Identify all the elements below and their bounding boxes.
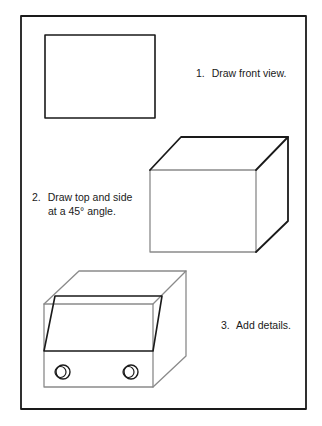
detailed-box-front-face — [44, 304, 153, 387]
step-2-number: 2. — [32, 191, 41, 203]
knob-right — [123, 365, 138, 379]
step-1-front-view — [45, 35, 155, 118]
step-3-number: 3. — [221, 319, 230, 331]
step-3-detailed-box — [44, 271, 186, 387]
step-2-label-line2: at a 45° angle. — [48, 205, 116, 217]
step-1-number: 1. — [196, 67, 205, 79]
detailed-box-top-face — [44, 271, 186, 304]
step-2-label-line1: 2. Draw top and side — [32, 191, 132, 203]
step-2-text-line1: Draw top and side — [48, 191, 133, 203]
step-3-text: Add details. — [236, 319, 291, 331]
box-front-face — [150, 170, 256, 252]
step-2-box — [150, 137, 288, 252]
knob-left — [55, 365, 70, 379]
step-1-text: Draw front view. — [212, 67, 287, 79]
box-top-face — [150, 137, 288, 170]
drawing-instructions-diagram: 1. Draw front view. 2. Draw top and side… — [0, 0, 322, 426]
step-3-label: 3. Add details. — [221, 319, 291, 331]
step-1-label: 1. Draw front view. — [196, 67, 286, 79]
front-view-rectangle — [45, 35, 155, 118]
